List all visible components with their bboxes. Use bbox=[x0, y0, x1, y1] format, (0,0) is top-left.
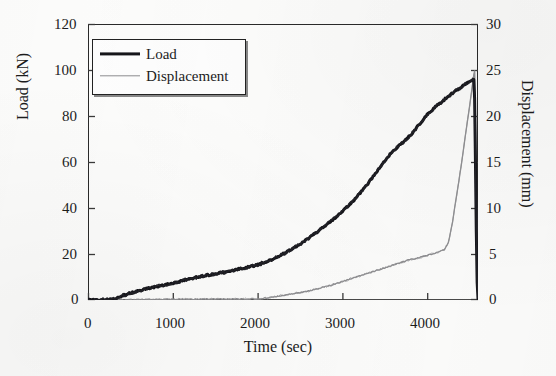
y-left-tick-label: 40 bbox=[62, 201, 77, 216]
series-noise-displacement bbox=[88, 72, 478, 301]
x-tick-label: 4000 bbox=[410, 316, 440, 331]
y-right-axis-title: Displacement (mm) bbox=[518, 80, 536, 208]
y-left-tick-label: 100 bbox=[54, 63, 77, 78]
y-right-tick-label: 0 bbox=[489, 292, 497, 307]
y-left-tick-label: 20 bbox=[62, 247, 77, 262]
legend-label-load: Load bbox=[146, 47, 177, 62]
chart-legend: Load Displacement bbox=[92, 39, 246, 95]
y-right-tick-label: 5 bbox=[489, 247, 497, 262]
x-tick-label: 2000 bbox=[240, 316, 270, 331]
load-displacement-chart-figure: 120 100 80 60 40 20 0 30 25 20 15 10 5 0… bbox=[0, 0, 556, 376]
y-left-axis-title: Load (kN) bbox=[14, 53, 32, 120]
y-left-tick-label: 60 bbox=[62, 155, 77, 170]
y-right-tick-label: 10 bbox=[486, 201, 501, 216]
series-line-load bbox=[88, 79, 478, 300]
x-tick-label: 1000 bbox=[155, 316, 185, 331]
series-noise-load bbox=[88, 78, 478, 302]
legend-line-swatch-displacement bbox=[100, 71, 140, 81]
y-left-tick-label: 120 bbox=[54, 17, 77, 32]
y-left-tick-label: 0 bbox=[71, 292, 79, 307]
y-left-tick-label: 80 bbox=[62, 109, 77, 124]
legend-item-displacement: Displacement bbox=[100, 66, 228, 86]
x-tick-label: 0 bbox=[84, 316, 92, 331]
x-tick-label: 3000 bbox=[325, 316, 355, 331]
y-right-tick-label: 30 bbox=[486, 17, 501, 32]
legend-label-displacement: Displacement bbox=[146, 69, 228, 84]
x-axis-title: Time (sec) bbox=[0, 338, 556, 356]
y-right-tick-label: 15 bbox=[486, 155, 501, 170]
y-right-tick-label: 20 bbox=[486, 109, 501, 124]
series-line-displacement bbox=[88, 71, 478, 301]
legend-item-load: Load bbox=[100, 44, 177, 64]
y-right-tick-label: 25 bbox=[486, 63, 501, 78]
legend-line-swatch-load bbox=[100, 49, 140, 59]
